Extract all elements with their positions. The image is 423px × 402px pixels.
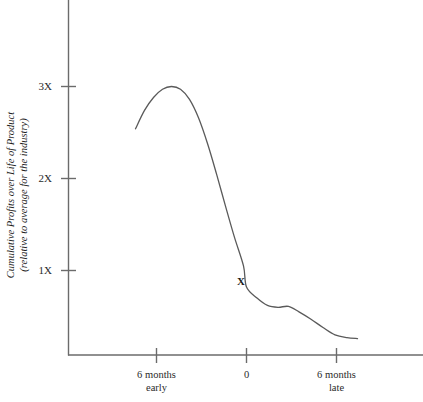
x-tick-label-6-months-early-line1: 6 months [137, 369, 176, 380]
y-axis-title-line2: (relative to average for the industry) [18, 118, 30, 272]
chart-container: 3X 2X 1X 6 months early 0 6 months late … [0, 0, 423, 402]
y-tick-label-2x: 2X [39, 172, 53, 184]
y-tick-label-1x: 1X [39, 264, 53, 276]
y-axis-title-line1: Cumulative Profits over Life of Product [5, 111, 16, 278]
x-tick-label-6-months-early-line2: early [146, 382, 168, 393]
y-axis-title: Cumulative Profits over Life of Product … [5, 111, 30, 278]
on-time-marker-label: X [237, 275, 245, 287]
chart-background [0, 0, 423, 402]
x-tick-label-6-months-late-line2: late [329, 382, 344, 393]
x-tick-label-zero: 0 [244, 369, 249, 380]
y-tick-label-3x: 3X [39, 80, 53, 92]
profit-decay-line-chart: 3X 2X 1X 6 months early 0 6 months late … [0, 0, 423, 402]
x-tick-label-6-months-late-line1: 6 months [317, 369, 356, 380]
